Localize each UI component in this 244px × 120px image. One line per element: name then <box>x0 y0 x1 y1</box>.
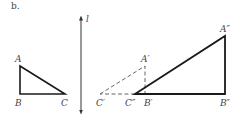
label-a: A <box>14 54 22 64</box>
label-b-prime: B′ <box>143 98 153 108</box>
triangle-reflected-dashed <box>100 66 145 94</box>
label-b: B <box>14 98 22 108</box>
label-c-prime: C′ <box>96 98 105 108</box>
label-c-double-prime: C″ <box>125 98 136 108</box>
label-b-double-prime: B″ <box>219 98 231 108</box>
triangle-abc <box>20 66 65 94</box>
line-label: l <box>86 14 89 24</box>
transformation-diagram: b. A B C l A′ C′ B′ C″ A″ B″ <box>0 0 244 120</box>
part-label: b. <box>11 1 20 11</box>
triangle-dilated-bold <box>135 36 225 94</box>
label-c: C <box>61 98 68 108</box>
label-a-prime: A′ <box>140 54 150 64</box>
label-a-double-prime: A″ <box>219 24 230 34</box>
